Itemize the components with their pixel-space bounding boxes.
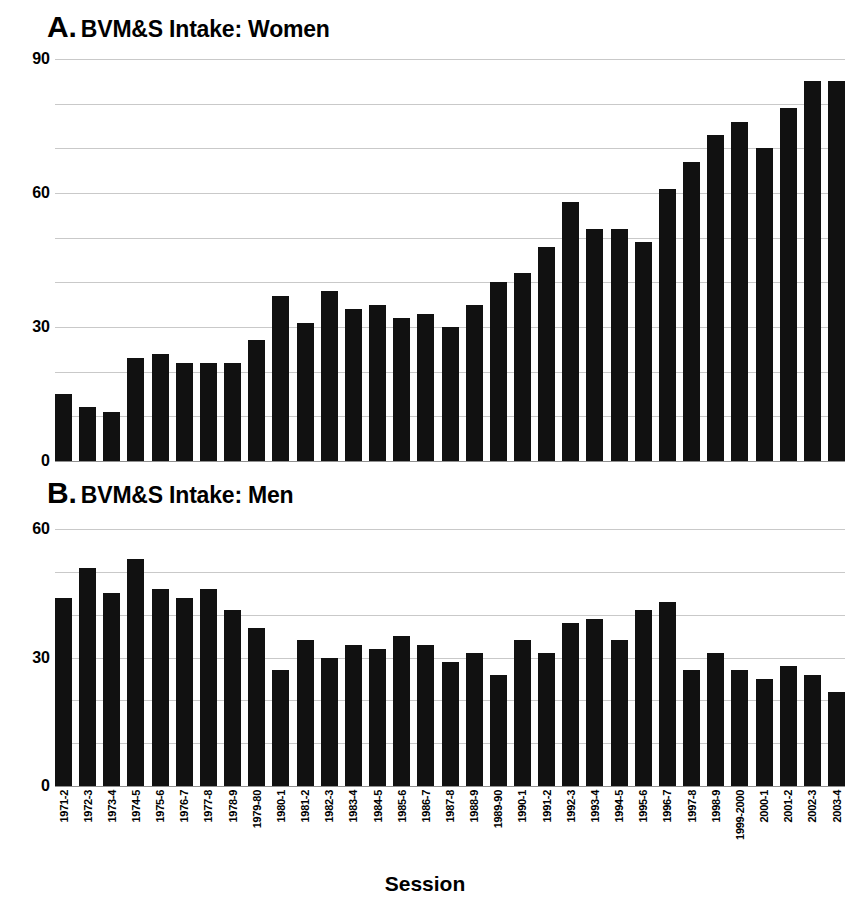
x-tick: 2003-4 <box>828 790 845 862</box>
bar <box>224 363 241 461</box>
bar <box>611 229 628 461</box>
bar <box>103 412 120 461</box>
x-tick: 1980-1 <box>272 790 289 862</box>
x-tick: 1983-4 <box>345 790 362 862</box>
bar <box>659 189 676 461</box>
bar <box>635 242 652 461</box>
bar <box>562 202 579 461</box>
bar <box>321 658 338 787</box>
bar <box>345 309 362 461</box>
bar <box>417 314 434 461</box>
y-tick-b-30: 30 <box>8 650 50 666</box>
bar <box>369 649 386 786</box>
x-tick: 2002-3 <box>804 790 821 862</box>
bar <box>79 568 96 786</box>
bar <box>152 589 169 786</box>
x-tick: 1996-7 <box>659 790 676 862</box>
bar <box>804 675 821 786</box>
x-tick-label: 1983-4 <box>347 790 359 822</box>
panel-b-letter: B. <box>47 476 77 509</box>
bar <box>828 81 845 461</box>
bar <box>200 363 217 461</box>
x-tick-label: 1973-4 <box>106 790 118 822</box>
bar <box>683 162 700 461</box>
x-tick-label: 1997-8 <box>686 790 698 822</box>
bar <box>635 610 652 786</box>
bar <box>79 407 96 461</box>
x-tick-label: 1991-2 <box>541 790 553 822</box>
bar <box>731 122 748 461</box>
x-tick: 1986-7 <box>417 790 434 862</box>
bar <box>393 318 410 461</box>
x-tick: 1984-5 <box>369 790 386 862</box>
bar <box>176 363 193 461</box>
bar <box>127 559 144 786</box>
bar <box>103 593 120 786</box>
panel-b-title: B. BVM&S Intake: Men <box>47 476 293 510</box>
x-tick: 1989-90 <box>490 790 507 862</box>
x-tick: 1992-3 <box>562 790 579 862</box>
bar <box>55 394 72 461</box>
x-tick-label: 1993-4 <box>589 790 601 822</box>
x-tick-label: 1992-3 <box>565 790 577 822</box>
x-tick-label: 1977-8 <box>202 790 214 822</box>
x-tick: 1993-4 <box>586 790 603 862</box>
bar <box>200 589 217 786</box>
panel-a-title: A. BVM&S Intake: Women <box>47 10 330 44</box>
bar <box>152 354 169 461</box>
bar <box>562 623 579 786</box>
x-tick: 1973-4 <box>103 790 120 862</box>
bar <box>707 653 724 786</box>
y-tick-a-90: 90 <box>8 51 50 67</box>
bar <box>707 135 724 461</box>
bar <box>756 679 773 786</box>
panel-b-bar-series <box>55 529 845 786</box>
x-tick-label: 1984-5 <box>372 790 384 822</box>
bar <box>272 670 289 786</box>
bar <box>611 640 628 786</box>
panel-a-title-text: BVM&S Intake: Women <box>81 16 330 42</box>
x-tick-label: 1999-2000 <box>734 790 746 840</box>
x-tick: 1987-8 <box>442 790 459 862</box>
x-tick: 1976-7 <box>176 790 193 862</box>
bar <box>756 148 773 461</box>
x-tick-label: 1979-80 <box>251 790 263 828</box>
x-tick-label: 1975-6 <box>154 790 166 822</box>
bar <box>393 636 410 786</box>
x-tick-label: 2000-1 <box>758 790 770 822</box>
panel-a-letter: A. <box>47 10 77 43</box>
x-tick: 1981-2 <box>297 790 314 862</box>
bar <box>538 653 555 786</box>
x-tick: 1977-8 <box>200 790 217 862</box>
x-tick: 1995-6 <box>635 790 652 862</box>
x-axis-tick-labels: 1971-21972-31973-41974-51975-61976-71977… <box>55 790 845 862</box>
bar <box>586 619 603 786</box>
x-tick-label: 1981-2 <box>299 790 311 822</box>
bar <box>538 247 555 461</box>
x-tick-label: 2002-3 <box>806 790 818 822</box>
bar <box>297 640 314 786</box>
x-tick-label: 1990-1 <box>516 790 528 822</box>
x-tick-label: 1980-1 <box>275 790 287 822</box>
bar <box>248 628 265 786</box>
bar <box>514 273 531 461</box>
bar <box>490 675 507 786</box>
x-tick-label: 1986-7 <box>420 790 432 822</box>
bar <box>248 340 265 461</box>
y-tick-a-0: 0 <box>8 453 50 469</box>
bar <box>417 645 434 786</box>
bar <box>466 653 483 786</box>
panel-a-x-axis-line <box>55 461 845 462</box>
panel-a-y-axis-labels: 0306090 <box>0 59 50 461</box>
bar <box>176 598 193 786</box>
x-tick: 1975-6 <box>152 790 169 862</box>
bar <box>466 305 483 461</box>
x-tick-label: 1978-9 <box>227 790 239 822</box>
x-tick-label: 1976-7 <box>178 790 190 822</box>
x-tick: 1994-5 <box>611 790 628 862</box>
x-tick: 1971-2 <box>55 790 72 862</box>
bar <box>514 640 531 786</box>
x-tick: 1988-9 <box>466 790 483 862</box>
bar <box>345 645 362 786</box>
panel-a-plot-area <box>55 59 845 461</box>
